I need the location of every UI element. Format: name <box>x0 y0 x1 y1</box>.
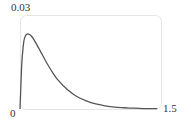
chart: 0.03 0 1.5 <box>0 0 191 122</box>
x-axis-max-label: 1.5 <box>163 103 177 114</box>
plot-frame <box>21 16 162 110</box>
x-axis-min-label: 0 <box>10 108 16 119</box>
y-axis-max-label: 0.03 <box>11 2 30 13</box>
density-curve <box>20 34 157 109</box>
